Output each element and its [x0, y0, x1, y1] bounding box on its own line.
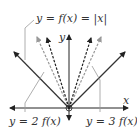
- label-y-fx: y = f(x) = |x|: [35, 12, 107, 26]
- leader-y-fx: [25, 20, 34, 60]
- leader-y-2fx: [25, 72, 44, 112]
- label-y-3fx: y = 3 f(x): [85, 115, 137, 128]
- label-y-2fx: y = 2 f(x): [8, 115, 61, 128]
- leader-y-3fx: [92, 66, 100, 112]
- graph-canvas: y = f(x) = |x| y = 2 f(x) y = 3 f(x) y x: [0, 0, 137, 140]
- y-axis-label: y: [58, 31, 66, 44]
- x-axis-label: x: [123, 94, 130, 107]
